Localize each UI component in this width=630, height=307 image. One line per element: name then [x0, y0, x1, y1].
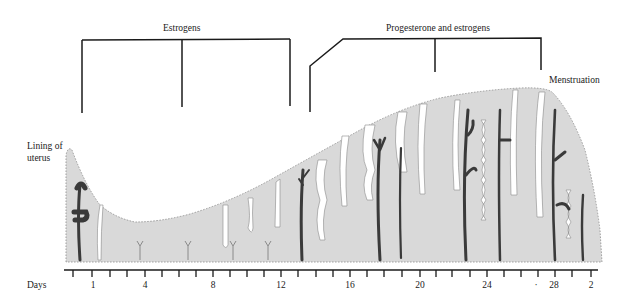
day-tick-label: 4	[143, 280, 148, 290]
estrogens-bracket	[82, 39, 290, 113]
day-tick-label: 24	[482, 280, 492, 290]
day-tick-label: 1	[91, 280, 96, 290]
lining-label-line1: Lining of	[27, 141, 63, 151]
day-tick-label: 2	[589, 280, 594, 290]
day-tick-label: 8	[211, 280, 216, 290]
uterus-lining-diagram	[0, 0, 630, 307]
day-tick-label: 28	[549, 280, 559, 290]
day-tick-label: 12	[276, 280, 286, 290]
menstruation-label: Menstruation	[549, 75, 600, 85]
day-axis-ticks	[73, 270, 591, 277]
lining-label-line2: uterus	[27, 153, 50, 163]
estrogens-label: Estrogens	[163, 23, 200, 33]
uterine-lining-tissue	[66, 88, 602, 262]
days-axis-label: Days	[27, 280, 47, 290]
day-tick-label: 20	[415, 280, 425, 290]
progesterone-estrogens-label: Progesterone and estrogens	[386, 23, 490, 33]
day-tick-label: 16	[345, 280, 355, 290]
day-tick-label: ·	[534, 280, 537, 290]
